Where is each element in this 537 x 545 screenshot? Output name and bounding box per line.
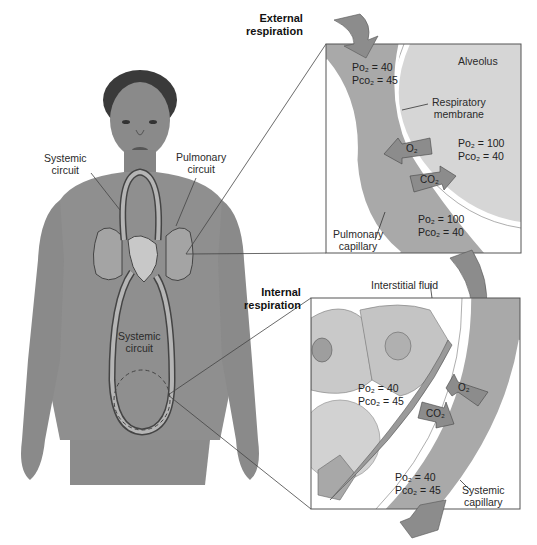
- interstitial-fluid-label: Interstitial fluid: [371, 279, 438, 291]
- title-line: respiration: [244, 299, 301, 312]
- po2-value: Po₂ = 40: [358, 382, 404, 395]
- systemic-circuit-upper-label: Systemic circuit: [44, 152, 87, 176]
- label-line: Systemic: [44, 152, 87, 164]
- head: [110, 82, 170, 158]
- pco2-value: Pco₂ = 40: [458, 150, 504, 163]
- title-line: Internal: [244, 286, 301, 299]
- pco2-value: Pco₂ = 45: [352, 74, 398, 87]
- pco2-value: Pco₂ = 45: [395, 484, 441, 497]
- label-line: Pulmonary: [176, 151, 226, 163]
- respiratory-membrane-label: Respiratory membrane: [432, 96, 486, 120]
- po2-value: Po₂ = 40: [352, 61, 398, 74]
- alveolus-values: Po₂ = 100 Pco₂ = 40: [458, 137, 504, 162]
- o2-arrow-label: O₂: [406, 143, 418, 154]
- blood-in-values: Po₂ = 40 Pco₂ = 45: [352, 61, 398, 86]
- cell-nucleus: [385, 332, 411, 360]
- systemic-capillary-label: Systemic capillary: [462, 484, 505, 508]
- external-respiration-title: External respiration: [246, 12, 303, 38]
- co2-arrow-label: CO₂: [420, 174, 439, 185]
- alveolus-label: Alveolus: [458, 55, 498, 67]
- label-line: Pulmonary: [333, 228, 383, 240]
- label-line: circuit: [176, 163, 226, 175]
- o2-arrow-label: O₂: [458, 382, 470, 393]
- torso: [48, 172, 232, 440]
- right-lung: [93, 228, 122, 280]
- title-line: External: [246, 12, 303, 25]
- diagram-canvas: [0, 0, 537, 545]
- legs: [70, 440, 210, 485]
- po2-value: Po₂ = 100: [458, 137, 504, 150]
- internal-respiration-title: Internal respiration: [244, 286, 301, 312]
- label-line: Systemic: [462, 484, 505, 496]
- pulmonary-circuit-label: Pulmonary circuit: [176, 151, 226, 175]
- systemic-circuit-lower-label: Systemic circuit: [118, 330, 161, 354]
- label-line: Respiratory: [432, 96, 486, 108]
- label-line: capillary: [333, 240, 383, 252]
- label-line: circuit: [118, 342, 161, 354]
- blood-out-values: Po₂ = 100 Pco₂ = 40: [418, 213, 464, 238]
- co2-arrow-label: CO₂: [426, 408, 445, 419]
- pco2-value: Pco₂ = 40: [418, 226, 464, 239]
- label-line: Systemic: [118, 330, 161, 342]
- label-line: capillary: [462, 496, 505, 508]
- blood-out-values: Po₂ = 40 Pco₂ = 45: [395, 471, 441, 496]
- label-line: circuit: [44, 164, 87, 176]
- title-line: respiration: [246, 25, 303, 38]
- right-arm: [21, 200, 64, 480]
- po2-value: Po₂ = 100: [418, 213, 464, 226]
- pco2-value: Pco₂ = 45: [358, 395, 404, 408]
- left-arm: [218, 200, 259, 480]
- tissue-values: Po₂ = 40 Pco₂ = 45: [358, 382, 404, 407]
- pulmonary-capillary-label: Pulmonary capillary: [333, 228, 383, 252]
- po2-value: Po₂ = 40: [395, 471, 441, 484]
- label-line: membrane: [432, 108, 486, 120]
- human-figure: [21, 70, 259, 485]
